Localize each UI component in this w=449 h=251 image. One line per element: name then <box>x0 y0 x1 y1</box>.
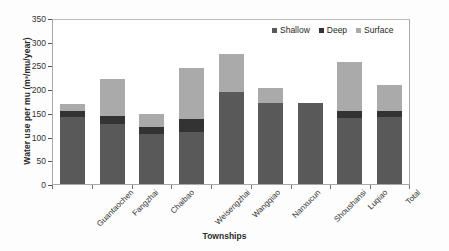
bar-segment-surface <box>179 68 204 119</box>
y-tick-mark <box>48 43 52 44</box>
x-tick-label-shoushansi: Shoushansi <box>332 188 368 224</box>
bar-segment-surface <box>377 85 402 111</box>
bar-slot <box>290 20 330 184</box>
stacked-bar[interactable] <box>258 88 283 184</box>
x-tick-label-weisengzhai: Weisengzhai <box>214 188 253 227</box>
legend-swatch-surface-icon <box>356 28 361 33</box>
chart-legend: ShallowDeepSurface <box>272 25 393 35</box>
stacked-bar[interactable] <box>298 103 323 184</box>
y-tick-label-300: 300 <box>22 38 46 48</box>
legend-item-shallow[interactable]: Shallow <box>272 25 310 35</box>
bar-segment-deep <box>100 116 125 124</box>
bar-group <box>53 20 409 184</box>
y-tick-mark <box>48 19 52 20</box>
x-axis-title: Townships <box>0 231 449 241</box>
bar-segment-surface <box>258 88 283 103</box>
bar-segment-deep <box>337 111 362 118</box>
legend-swatch-deep-icon <box>319 28 324 33</box>
y-tick-label-50: 50 <box>22 156 46 166</box>
y-tick-label-350: 350 <box>22 14 46 24</box>
x-tick-label-wangqiao: Wangqiao <box>250 188 282 220</box>
y-axis-tick-labels: 050100150200250300350 <box>20 0 46 251</box>
bar-slot <box>172 20 212 184</box>
bar-segment-deep <box>179 119 204 132</box>
y-tick-label-200: 200 <box>22 85 46 95</box>
y-tick-mark <box>48 66 52 67</box>
x-tick-label-chaibao: Chaibao <box>169 188 196 215</box>
y-tick-label-250: 250 <box>22 61 46 71</box>
bar-segment-shallow <box>179 132 204 184</box>
x-tick-label-fangzhai: Fangzhai <box>130 188 160 218</box>
bar-segment-surface <box>337 62 362 111</box>
y-tick-mark <box>48 138 52 139</box>
bar-segment-surface <box>100 79 125 116</box>
legend-label: Surface <box>364 25 393 35</box>
bar-slot <box>370 20 410 184</box>
bar-slot <box>211 20 251 184</box>
bar-segment-shallow <box>258 103 283 184</box>
x-tick-label-guantaochen: Guantaochen <box>95 188 135 228</box>
y-tick-label-100: 100 <box>22 133 46 143</box>
bar-segment-shallow <box>139 134 164 184</box>
bar-slot <box>53 20 93 184</box>
y-tick-label-150: 150 <box>22 109 46 119</box>
legend-label: Deep <box>327 25 347 35</box>
stacked-bar[interactable] <box>219 54 244 184</box>
bar-segment-shallow <box>60 117 85 184</box>
bar-segment-deep <box>139 127 164 134</box>
chart-figure: Water use per mu (m³/mu/year) 0501001502… <box>0 0 449 251</box>
bar-segment-surface <box>219 54 244 92</box>
x-tick-label-nanxucun: Nanxucun <box>290 188 322 220</box>
bar-segment-shallow <box>219 92 244 184</box>
plot-area <box>52 19 410 185</box>
y-tick-mark <box>48 161 52 162</box>
legend-swatch-shallow-icon <box>272 28 277 33</box>
stacked-bar[interactable] <box>377 85 402 184</box>
x-tick-label-luqiao: Luqiao <box>366 188 389 211</box>
bar-segment-shallow <box>377 117 402 184</box>
bar-slot <box>132 20 172 184</box>
stacked-bar[interactable] <box>179 68 204 184</box>
stacked-bar[interactable] <box>337 62 362 184</box>
y-tick-label-0: 0 <box>22 180 46 190</box>
bar-slot <box>93 20 133 184</box>
y-tick-mark <box>48 90 52 91</box>
bar-segment-surface <box>139 114 164 127</box>
stacked-bar[interactable] <box>139 114 164 184</box>
y-tick-mark <box>48 185 52 186</box>
legend-item-deep[interactable]: Deep <box>319 25 347 35</box>
bar-slot <box>330 20 370 184</box>
bar-segment-shallow <box>337 118 362 184</box>
legend-label: Shallow <box>280 25 310 35</box>
bar-segment-shallow <box>100 124 125 184</box>
bar-segment-shallow <box>298 103 323 184</box>
bar-segment-surface <box>60 104 85 112</box>
stacked-bar[interactable] <box>100 79 125 184</box>
stacked-bar[interactable] <box>60 104 85 184</box>
bar-slot <box>251 20 291 184</box>
legend-item-surface[interactable]: Surface <box>356 25 393 35</box>
y-tick-mark <box>48 114 52 115</box>
x-tick-label-total: Total <box>404 188 422 206</box>
